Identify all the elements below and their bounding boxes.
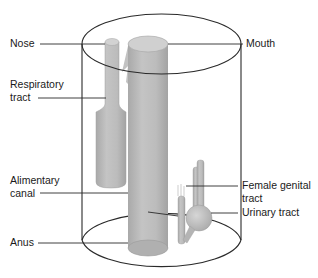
- label-urinary-tract: Urinary tract: [242, 206, 299, 219]
- label-respiratory-tract-line1: Respiratory: [10, 78, 64, 91]
- label-mouth: Mouth: [246, 37, 275, 50]
- urogenital-tubes: [178, 160, 212, 244]
- label-nose: Nose: [10, 37, 35, 50]
- alimentary-canal-tube: [122, 36, 168, 256]
- respiratory-tract-tube: [96, 39, 126, 189]
- label-female-genital-tract-line2: tract: [242, 192, 262, 205]
- label-alimentary-canal-line1: Alimentary: [10, 174, 60, 187]
- label-female-genital-tract-line1: Female genital: [242, 179, 311, 192]
- label-respiratory-tract-line2: tract: [10, 91, 30, 104]
- label-anus: Anus: [10, 236, 34, 249]
- label-alimentary-canal-line2: canal: [10, 187, 35, 200]
